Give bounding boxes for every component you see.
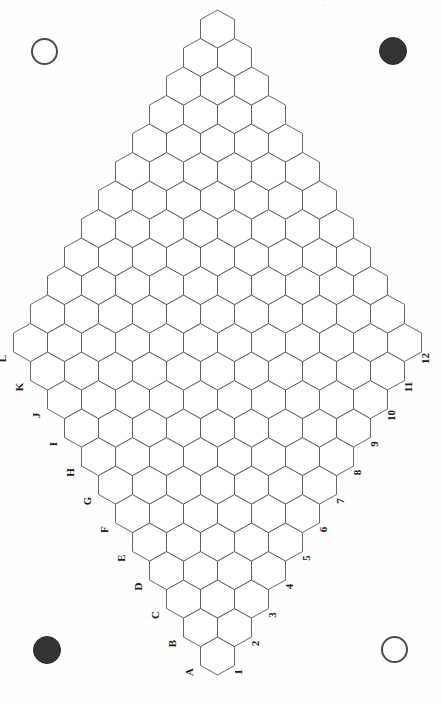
row-label-E: E	[115, 554, 127, 561]
col-label-3: 3	[266, 612, 278, 618]
col-label-5: 5	[300, 555, 312, 561]
col-label-2: 2	[249, 640, 261, 646]
hex-board[interactable]: ABCDEFGHIJKL123456789101112	[0, 0, 441, 704]
col-label-8: 8	[351, 469, 363, 475]
piece-white-bottom-right[interactable]	[381, 636, 408, 663]
page-canvas: ABCDEFGHIJKL123456789101112 ..	[0, 0, 441, 704]
row-label-K: K	[13, 382, 25, 391]
row-label-C: C	[149, 611, 161, 619]
piece-white-top-left[interactable]	[31, 38, 58, 65]
col-label-11: 11	[402, 382, 414, 392]
hex-cell-group[interactable]	[14, 10, 422, 675]
row-label-H: H	[64, 468, 76, 477]
row-label-L: L	[0, 355, 8, 362]
scan-artifact-smudge: ..	[321, 0, 336, 7]
col-label-1: 1	[232, 669, 244, 675]
piece-black-top-right[interactable]	[379, 37, 407, 65]
row-label-B: B	[166, 639, 178, 647]
col-label-7: 7	[334, 498, 346, 504]
row-label-F: F	[98, 526, 110, 533]
col-label-6: 6	[317, 526, 329, 532]
row-label-I: I	[47, 442, 59, 446]
piece-black-bottom-left[interactable]	[33, 636, 61, 664]
row-label-D: D	[132, 582, 144, 590]
col-label-4: 4	[283, 583, 295, 589]
col-label-12: 12	[419, 353, 431, 365]
row-label-J: J	[30, 412, 42, 418]
row-label-G: G	[81, 496, 93, 505]
col-label-10: 10	[385, 410, 397, 422]
col-label-9: 9	[368, 441, 380, 447]
row-label-A: A	[183, 668, 195, 676]
